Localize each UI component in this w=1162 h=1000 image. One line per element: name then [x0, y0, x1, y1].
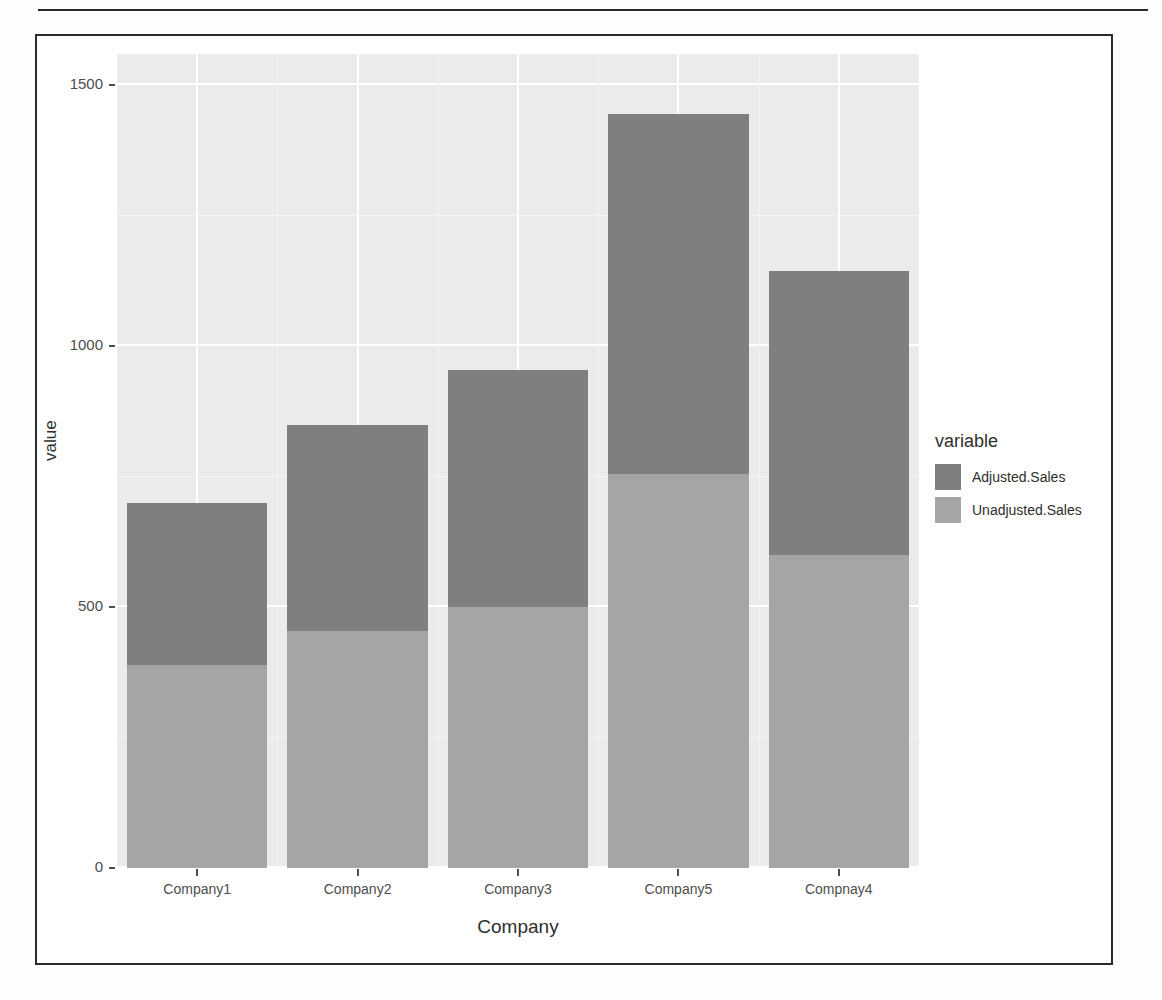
x-tick-label: Company5 [645, 881, 713, 897]
x-tick-mark [517, 869, 519, 876]
x-tick-mark [357, 869, 359, 876]
x-tick-mark [838, 869, 840, 876]
y-tick-label: 1500 [37, 75, 103, 92]
chart-panel [117, 54, 919, 868]
gridline-minor-x [438, 54, 439, 868]
bar-segment-unadjusted-sales [287, 631, 427, 868]
bar-segment-unadjusted-sales [448, 607, 588, 868]
bar-company2 [287, 424, 427, 868]
x-tick-mark [196, 869, 198, 876]
bar-company5 [608, 114, 748, 868]
x-tick-label: Company1 [163, 881, 231, 897]
x-axis-title: Company [117, 916, 919, 938]
figure-frame: 050010001500 Company1Company2Company3Com… [35, 34, 1113, 965]
x-tick-label: Company2 [324, 881, 392, 897]
gridline-minor-x [759, 54, 760, 868]
bar-segment-unadjusted-sales [127, 665, 267, 869]
y-tick-mark [109, 84, 115, 86]
y-tick-mark [109, 606, 115, 608]
legend-item: Unadjusted.Sales [935, 497, 1115, 523]
legend-color-swatch-icon [935, 497, 961, 523]
page-top-rule [38, 9, 1148, 11]
legend-item: Adjusted.Sales [935, 464, 1115, 490]
bar-compnay4 [769, 271, 909, 868]
chart-plot-area: 050010001500 Company1Company2Company3Com… [37, 36, 1115, 967]
legend-label: Unadjusted.Sales [972, 502, 1082, 518]
bar-segment-adjusted-sales [127, 503, 267, 665]
y-tick-mark [109, 867, 115, 869]
bar-segment-adjusted-sales [769, 271, 909, 555]
x-tick-label: Compnay4 [805, 881, 873, 897]
legend-label: Adjusted.Sales [972, 469, 1065, 485]
legend-color-swatch-icon [935, 464, 961, 490]
x-tick-label: Company3 [484, 881, 552, 897]
y-tick-mark [109, 345, 115, 347]
x-tick-mark [677, 869, 679, 876]
bar-segment-adjusted-sales [448, 370, 588, 607]
gridline-minor-x [598, 54, 599, 868]
bar-company3 [448, 370, 588, 868]
gridline-minor-x [277, 54, 278, 868]
y-axis-title: value [41, 420, 61, 461]
y-tick-label: 1000 [37, 336, 103, 353]
y-tick-label: 500 [37, 597, 103, 614]
y-tick-label: 0 [37, 858, 103, 875]
legend: variable Adjusted.SalesUnadjusted.Sales [935, 431, 1115, 530]
bar-segment-unadjusted-sales [608, 474, 748, 868]
bar-company1 [127, 503, 267, 868]
bar-segment-adjusted-sales [287, 425, 427, 631]
bar-segment-adjusted-sales [608, 114, 748, 474]
bar-segment-unadjusted-sales [769, 555, 909, 868]
legend-items: Adjusted.SalesUnadjusted.Sales [935, 464, 1115, 523]
legend-title: variable [935, 431, 1115, 452]
